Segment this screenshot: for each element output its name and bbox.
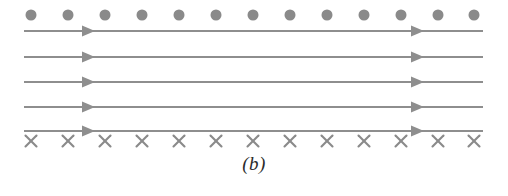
field-out-of-page-dot	[396, 10, 407, 21]
figure-caption: (b)	[0, 152, 508, 176]
field-line-figure: (b)	[0, 0, 508, 196]
field-out-of-page-dot	[322, 10, 333, 21]
field-into-page-cross	[248, 136, 259, 147]
field-out-of-page-dot	[137, 10, 148, 21]
field-line-arrowhead	[82, 101, 95, 112]
field-into-page-cross	[211, 136, 222, 147]
field-line-arrowhead	[411, 101, 424, 112]
field-out-of-page-dot	[63, 10, 74, 21]
field-line-arrowhead	[411, 51, 424, 62]
field-out-of-page-dot	[469, 10, 480, 21]
field-line-group	[24, 25, 483, 136]
field-line-arrowhead	[411, 25, 424, 36]
field-out-of-page-dot	[433, 10, 444, 21]
field-into-page-cross	[26, 136, 37, 147]
field-line-arrowhead	[82, 125, 95, 136]
field-out-of-page-dot	[211, 10, 222, 21]
field-into-page-cross	[433, 136, 444, 147]
field-out-of-page-dot	[359, 10, 370, 21]
field-into-page-cross	[137, 136, 148, 147]
field-into-page-cross	[396, 136, 407, 147]
field-line-arrowhead	[82, 76, 95, 87]
field-out-of-page-dot	[248, 10, 259, 21]
field-line-arrowhead	[82, 25, 95, 36]
field-line-arrowhead	[411, 76, 424, 87]
field-into-page-cross	[469, 136, 480, 147]
field-into-page-cross	[100, 136, 111, 147]
field-out-of-page-dot	[285, 10, 296, 21]
field-into-page-cross	[359, 136, 370, 147]
field-out-of-page-dot	[26, 10, 37, 21]
field-into-page-cross	[322, 136, 333, 147]
field-line-arrowhead	[411, 125, 424, 136]
field-into-page-cross	[174, 136, 185, 147]
field-line-arrowhead	[82, 51, 95, 62]
field-into-page-cross	[63, 136, 74, 147]
field-into-page-cross	[285, 136, 296, 147]
field-out-of-page-marker-row	[26, 10, 480, 21]
field-out-of-page-dot	[174, 10, 185, 21]
field-out-of-page-dot	[100, 10, 111, 21]
field-into-page-marker-row	[26, 136, 480, 147]
